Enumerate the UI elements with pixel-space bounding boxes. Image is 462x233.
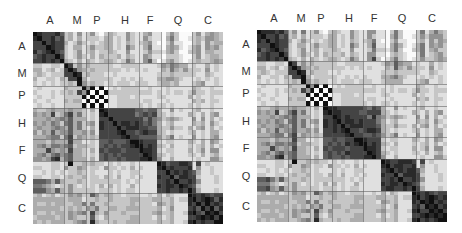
row-label-p: P <box>18 89 25 101</box>
column-label-p: P <box>317 12 324 24</box>
column-label-q: Q <box>398 12 407 24</box>
column-label-q: Q <box>174 14 183 26</box>
group-separator-vertical <box>108 32 109 224</box>
column-label-f: F <box>371 12 378 24</box>
row-label-c: C <box>18 202 26 214</box>
row-label-q: Q <box>242 170 251 182</box>
group-separator-vertical <box>288 30 289 222</box>
similarity-matrix-right <box>257 30 447 222</box>
group-separator-vertical <box>192 32 193 224</box>
column-label-m: M <box>296 12 305 24</box>
column-label-p: P <box>93 14 100 26</box>
group-separator-vertical <box>416 30 417 222</box>
group-separator-horizontal <box>257 61 447 62</box>
column-label-c: C <box>428 12 436 24</box>
group-separator-vertical <box>385 30 386 222</box>
row-label-f: F <box>19 144 26 156</box>
heatmap-panel-left: AMPHFQCAMPHFQC <box>0 0 231 233</box>
column-label-c: C <box>204 14 212 26</box>
row-label-p: P <box>242 87 249 99</box>
row-label-a: A <box>18 40 25 52</box>
column-label-h: H <box>121 14 129 26</box>
group-separator-vertical <box>161 32 162 224</box>
column-label-a: A <box>270 12 277 24</box>
group-separator-horizontal <box>33 193 223 194</box>
group-separator-horizontal <box>257 191 447 192</box>
column-label-a: A <box>46 14 53 26</box>
group-separator-horizontal <box>33 86 223 87</box>
group-separator-horizontal <box>33 108 223 109</box>
group-separator-horizontal <box>257 84 447 85</box>
heatmap-panel-right: AMPHFQCAMPHFQC <box>224 0 455 233</box>
row-label-f: F <box>243 142 250 154</box>
column-label-h: H <box>345 12 353 24</box>
group-separator-vertical <box>332 30 333 222</box>
group-separator-vertical <box>310 30 311 222</box>
group-separator-vertical <box>86 32 87 224</box>
row-label-h: H <box>242 115 250 127</box>
group-separator-horizontal <box>33 161 223 162</box>
column-label-f: F <box>147 14 154 26</box>
column-label-m: M <box>72 14 81 26</box>
row-label-m: M <box>241 65 250 77</box>
row-label-h: H <box>18 117 26 129</box>
group-separator-horizontal <box>257 159 447 160</box>
row-label-a: A <box>242 38 249 50</box>
row-label-q: Q <box>18 172 27 184</box>
group-separator-horizontal <box>257 137 447 138</box>
heatmap-cell <box>219 220 223 224</box>
group-separator-vertical <box>363 30 364 222</box>
group-separator-horizontal <box>257 106 447 107</box>
group-separator-horizontal <box>33 139 223 140</box>
row-label-c: C <box>242 200 250 212</box>
group-separator-vertical <box>139 32 140 224</box>
heatmap-cell <box>443 218 447 222</box>
similarity-matrix-left <box>33 32 223 224</box>
row-label-m: M <box>17 67 26 79</box>
group-separator-vertical <box>64 32 65 224</box>
group-separator-horizontal <box>33 63 223 64</box>
